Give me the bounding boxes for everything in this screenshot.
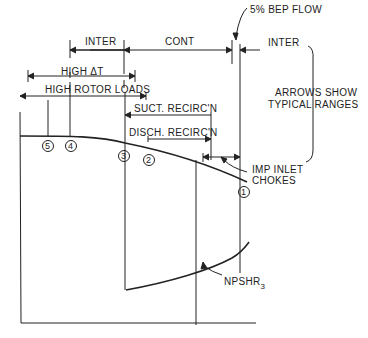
point-2: 2 [146, 155, 151, 165]
point-4: 4 [68, 141, 73, 151]
point-3: 3 [121, 151, 126, 161]
typical-ranges-label: TYPICAL RANGES [268, 99, 359, 110]
high-dt-label: HIGH ΔT [61, 66, 104, 77]
diagram-canvas: 5% BEP FLOW INTER CONT INTER HIGH ΔT HIG… [0, 0, 368, 338]
imp-inlet-label: IMP INLET [252, 164, 303, 175]
bep-flow-label: 5% BEP FLOW [250, 4, 322, 15]
npshr-label: NPSHR3 [224, 276, 266, 291]
y-axis [20, 112, 21, 323]
inter-left-label: INTER [85, 36, 117, 47]
suct-recirc-label: SUCT. RECIRC'N [134, 103, 217, 114]
point-1: 1 [241, 187, 246, 197]
inter-right-label: INTER [268, 37, 300, 48]
point-5: 5 [45, 141, 50, 151]
arrows-show-label: ARROWS SHOW [275, 87, 357, 98]
chokes-label: CHOKES [252, 175, 296, 186]
pump-operating-range-diagram: 5% BEP FLOW INTER CONT INTER HIGH ΔT HIG… [0, 0, 368, 338]
cont-label: CONT [165, 36, 195, 47]
high-rotor-loads-label: HIGH ROTOR LOADS [45, 84, 150, 95]
disch-recirc-label: DISCH. RECIRC'N [129, 127, 218, 138]
head-curve [20, 136, 247, 182]
